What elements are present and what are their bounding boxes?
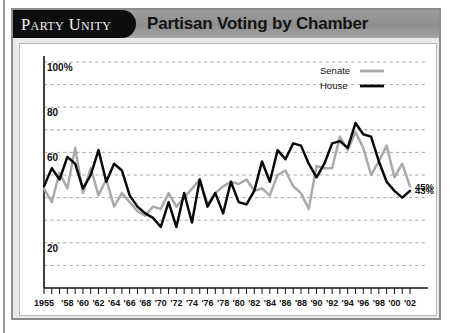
- y-tick-label: 80: [47, 107, 59, 118]
- x-tick-label: '58: [61, 298, 73, 308]
- x-tick-label: '96: [357, 298, 369, 308]
- chart-legend: SenateHouse: [320, 65, 384, 91]
- x-tick-label: 1955: [34, 298, 54, 308]
- x-tick-label: '02: [404, 298, 416, 308]
- x-tick-label: '82: [248, 298, 260, 308]
- x-tick-label: '66: [124, 298, 136, 308]
- x-tick-label: '64: [108, 298, 120, 308]
- legend-label-house: House: [320, 80, 347, 91]
- party-unity-tab-label: Party Unity: [21, 15, 111, 35]
- x-tick-label: '00: [388, 298, 400, 308]
- series-line-house: [44, 123, 410, 227]
- x-tick-label: '84: [264, 298, 276, 308]
- x-tick-label: '86: [279, 298, 291, 308]
- page-rule: [3, 0, 5, 333]
- x-tick-label: '60: [77, 298, 89, 308]
- x-tick-label: '62: [92, 298, 104, 308]
- end-label-house: 43%: [415, 185, 435, 196]
- y-tick-label: 20: [47, 243, 59, 254]
- series-line-senate: [44, 132, 410, 216]
- x-tick-label: '88: [295, 298, 307, 308]
- chart-card: Party Unity Partisan Voting by Chamber 2…: [11, 8, 441, 320]
- series-end-labels: 45%43%: [415, 181, 435, 197]
- chart-figure: Party Unity Partisan Voting by Chamber 2…: [0, 0, 450, 333]
- chart-header: Party Unity Partisan Voting by Chamber: [13, 10, 439, 38]
- x-tick-label: '98: [373, 298, 385, 308]
- legend-label-senate: Senate: [320, 65, 350, 76]
- x-tick-label: '78: [217, 298, 229, 308]
- x-tick-label: '90: [310, 298, 322, 308]
- x-axis-ticks: [44, 288, 410, 294]
- x-tick-label: '70: [155, 298, 167, 308]
- x-axis-labels: 1955'58'60'62'64'66'68'70'72'74'76'78'80…: [34, 298, 416, 308]
- x-tick-label: '68: [139, 298, 151, 308]
- page-title: Partisan Voting by Chamber: [147, 14, 368, 34]
- x-tick-label: '76: [201, 298, 213, 308]
- x-tick-label: '72: [170, 298, 182, 308]
- plot-area: 206080100% 1955'58'60'62'64'66'68'70'72'…: [19, 43, 437, 316]
- x-tick-label: '94: [342, 298, 354, 308]
- x-tick-label: '80: [233, 298, 245, 308]
- x-tick-label: '74: [186, 298, 198, 308]
- y-tick-label: 100%: [47, 62, 73, 73]
- x-tick-label: '92: [326, 298, 338, 308]
- y-tick-label: 60: [47, 152, 59, 163]
- line-chart-svg: 206080100% 1955'58'60'62'64'66'68'70'72'…: [20, 44, 438, 317]
